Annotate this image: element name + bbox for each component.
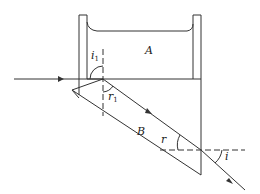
diagram-canvas: A B i1 r1 r i xyxy=(0,0,260,194)
arrow-incident xyxy=(58,76,64,82)
arc-i1 xyxy=(90,66,103,79)
arc-i xyxy=(215,150,222,163)
container-left-wall xyxy=(79,15,87,95)
label-medium-b: B xyxy=(137,126,145,137)
label-angle-r1: r1 xyxy=(108,91,118,104)
label-angle-i: i xyxy=(225,151,229,162)
arc-r xyxy=(177,135,180,150)
arrow-exit xyxy=(226,178,233,184)
arrow-refracted xyxy=(145,108,152,114)
label-angle-i1: i1 xyxy=(91,50,99,63)
liquid-surface xyxy=(87,22,193,31)
label-medium-a: A xyxy=(145,45,153,56)
diagram-svg xyxy=(0,0,260,194)
exit-ray xyxy=(201,150,245,190)
refracted-ray xyxy=(103,79,201,150)
label-angle-r: r xyxy=(161,134,166,145)
container-right-wall xyxy=(193,15,201,175)
